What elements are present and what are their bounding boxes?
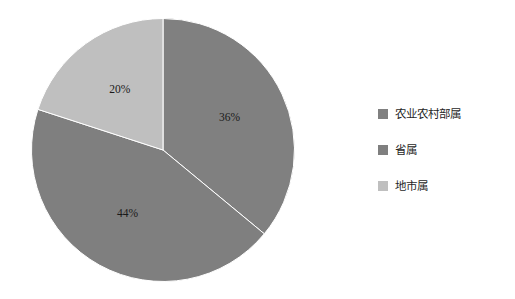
pie-slices (32, 19, 295, 282)
legend-swatch-icon (378, 181, 388, 191)
legend-item-label: 省属 (395, 139, 417, 161)
legend-item-label: 农业农村部属 (395, 103, 461, 125)
pie-slice-label: 20% (109, 83, 131, 95)
legend-item[interactable]: 地市属 (378, 175, 508, 211)
legend-item[interactable]: 省属 (378, 139, 508, 175)
pie-plot-area: 36%44%20% (31, 18, 295, 282)
pie-svg: 36%44%20% (31, 18, 295, 282)
legend-item[interactable]: 农业农村部属 (378, 103, 508, 139)
pie-slice-label: 44% (117, 207, 139, 219)
pie-slice-label: 36% (219, 111, 241, 123)
chart-legend: 农业农村部属省属地市属 (378, 103, 508, 211)
pie-chart: 36%44%20% 农业农村部属省属地市属 (0, 0, 515, 299)
legend-swatch-icon (378, 145, 388, 155)
legend-swatch-icon (378, 109, 388, 119)
legend-item-label: 地市属 (395, 175, 428, 197)
